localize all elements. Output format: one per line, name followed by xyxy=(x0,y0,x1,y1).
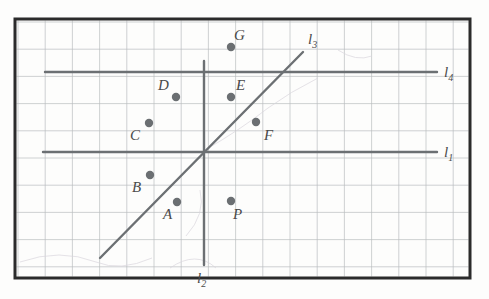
point-D xyxy=(172,93,180,101)
plotted-points xyxy=(145,43,260,206)
grid-lines xyxy=(17,21,469,277)
point-A xyxy=(173,198,181,206)
line-label-l4: l4 xyxy=(444,64,453,83)
point-label-F: F xyxy=(263,127,274,143)
point-F xyxy=(252,118,260,126)
point-G xyxy=(227,43,235,51)
point-label-P: P xyxy=(232,206,242,222)
line-label-l3: l3 xyxy=(308,31,317,50)
line-label-l1: l1 xyxy=(444,144,453,163)
point-P xyxy=(227,197,235,205)
point-label-C: C xyxy=(130,127,141,143)
point-label-E: E xyxy=(235,77,245,93)
point-C xyxy=(145,119,153,127)
point-label-A: A xyxy=(162,206,173,222)
geometry-diagram: l1l2l3l4ABCDEFGP xyxy=(0,0,489,299)
point-label-D: D xyxy=(157,77,169,93)
point-label-B: B xyxy=(132,179,141,195)
point-B xyxy=(146,171,154,179)
diagram-frame xyxy=(15,19,470,278)
geometry-canvas: l1l2l3l4ABCDEFGP xyxy=(0,0,489,299)
point-label-G: G xyxy=(234,27,245,43)
line-l3 xyxy=(100,52,303,258)
point-E xyxy=(227,93,235,101)
line-label-l2: l2 xyxy=(197,270,206,289)
